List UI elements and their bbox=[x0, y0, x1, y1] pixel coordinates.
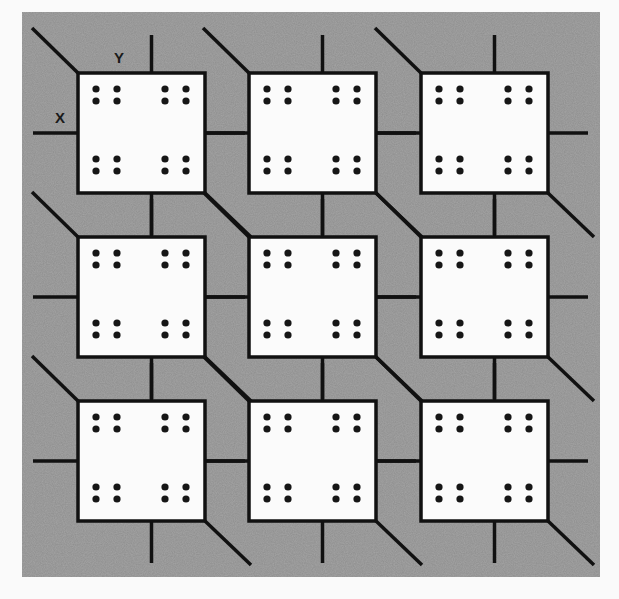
pin-dot bbox=[113, 249, 120, 256]
pin-dot bbox=[263, 155, 270, 162]
pin-dot bbox=[332, 97, 339, 104]
pin-dot bbox=[525, 85, 532, 92]
pin-dot bbox=[182, 331, 189, 338]
pin-dot bbox=[263, 425, 270, 432]
pin-dot bbox=[263, 97, 270, 104]
x-axis-label: X bbox=[55, 109, 65, 126]
pin-dot bbox=[332, 425, 339, 432]
pin-dot bbox=[332, 155, 339, 162]
pin-dot bbox=[113, 425, 120, 432]
pin-dot bbox=[456, 331, 463, 338]
pin-dot bbox=[284, 249, 291, 256]
pin-dot bbox=[525, 261, 532, 268]
pin-dot bbox=[263, 495, 270, 502]
pin-dot bbox=[113, 495, 120, 502]
pin-dot bbox=[92, 155, 99, 162]
pin-dot bbox=[504, 97, 511, 104]
pin-dot bbox=[161, 167, 168, 174]
pin-dot bbox=[353, 413, 360, 420]
pin-dot bbox=[284, 483, 291, 490]
pin-dot bbox=[456, 495, 463, 502]
processing-cell bbox=[421, 73, 548, 193]
pin-dot bbox=[525, 331, 532, 338]
pin-dot bbox=[161, 331, 168, 338]
pin-dot bbox=[161, 97, 168, 104]
pin-dot bbox=[456, 425, 463, 432]
pin-dot bbox=[92, 167, 99, 174]
pin-dot bbox=[456, 85, 463, 92]
pin-dot bbox=[456, 483, 463, 490]
pin-dot bbox=[332, 483, 339, 490]
pin-dot bbox=[504, 425, 511, 432]
pin-dot bbox=[525, 495, 532, 502]
pin-dot bbox=[525, 167, 532, 174]
processing-cell bbox=[78, 237, 205, 357]
pin-dot bbox=[284, 413, 291, 420]
pin-dot bbox=[113, 155, 120, 162]
y-axis-label: Y bbox=[114, 49, 124, 66]
pin-dot bbox=[525, 319, 532, 326]
pin-dot bbox=[353, 155, 360, 162]
pin-dot bbox=[284, 85, 291, 92]
processing-cell bbox=[78, 401, 205, 521]
pin-dot bbox=[504, 495, 511, 502]
pin-dot bbox=[525, 249, 532, 256]
pin-dot bbox=[353, 97, 360, 104]
pin-dot bbox=[456, 249, 463, 256]
pin-dot bbox=[435, 155, 442, 162]
pin-dot bbox=[182, 261, 189, 268]
pin-dot bbox=[161, 261, 168, 268]
pin-dot bbox=[113, 167, 120, 174]
pin-dot bbox=[161, 155, 168, 162]
processing-cell bbox=[249, 73, 376, 193]
pin-dot bbox=[456, 319, 463, 326]
processing-cell bbox=[421, 401, 548, 521]
pin-dot bbox=[113, 97, 120, 104]
pin-dot bbox=[284, 97, 291, 104]
pin-dot bbox=[263, 483, 270, 490]
pin-dot bbox=[113, 483, 120, 490]
pin-dot bbox=[182, 249, 189, 256]
pin-dot bbox=[435, 425, 442, 432]
processing-cell bbox=[78, 73, 205, 193]
pin-dot bbox=[113, 319, 120, 326]
pin-dot bbox=[284, 155, 291, 162]
pin-dot bbox=[504, 331, 511, 338]
pin-dot bbox=[92, 85, 99, 92]
cell-grid bbox=[78, 73, 548, 521]
pin-dot bbox=[525, 483, 532, 490]
pin-dot bbox=[435, 249, 442, 256]
pin-dot bbox=[92, 261, 99, 268]
pin-dot bbox=[504, 483, 511, 490]
pin-dot bbox=[332, 261, 339, 268]
pin-dot bbox=[161, 413, 168, 420]
pin-dot bbox=[92, 413, 99, 420]
pin-dot bbox=[435, 261, 442, 268]
pin-dot bbox=[456, 155, 463, 162]
pin-dot bbox=[525, 425, 532, 432]
pin-dot bbox=[182, 413, 189, 420]
pin-dot bbox=[504, 261, 511, 268]
pin-dot bbox=[92, 97, 99, 104]
pin-dot bbox=[353, 425, 360, 432]
pin-dot bbox=[113, 331, 120, 338]
pin-dot bbox=[353, 331, 360, 338]
pin-dot bbox=[435, 413, 442, 420]
pin-dot bbox=[263, 413, 270, 420]
pin-dot bbox=[161, 319, 168, 326]
pin-dot bbox=[435, 331, 442, 338]
pin-dot bbox=[525, 413, 532, 420]
pin-dot bbox=[182, 425, 189, 432]
pin-dot bbox=[284, 495, 291, 502]
cell-array-diagram: Y X bbox=[0, 0, 619, 599]
pin-dot bbox=[92, 319, 99, 326]
pin-dot bbox=[353, 249, 360, 256]
pin-dot bbox=[504, 249, 511, 256]
pin-dot bbox=[525, 97, 532, 104]
pin-dot bbox=[353, 85, 360, 92]
pin-dot bbox=[92, 495, 99, 502]
pin-dot bbox=[182, 483, 189, 490]
pin-dot bbox=[161, 425, 168, 432]
pin-dot bbox=[353, 495, 360, 502]
pin-dot bbox=[182, 167, 189, 174]
